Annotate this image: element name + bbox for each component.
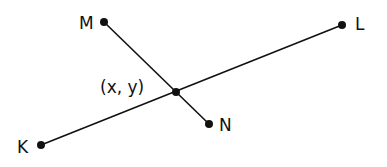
point-intersection (172, 88, 180, 96)
diagram-svg (0, 0, 387, 167)
point-n (205, 120, 213, 128)
label-k: K (17, 139, 28, 156)
label-intersection: (x, y) (100, 79, 144, 96)
label-l: L (355, 16, 364, 33)
segment-kl (41, 25, 342, 145)
label-m: M (79, 15, 94, 32)
diagram-canvas: M N K L (x, y) (0, 0, 387, 167)
point-m (100, 18, 108, 26)
point-l (338, 21, 346, 29)
label-n: N (219, 117, 232, 134)
point-k (37, 141, 45, 149)
segment-mn (104, 22, 209, 124)
